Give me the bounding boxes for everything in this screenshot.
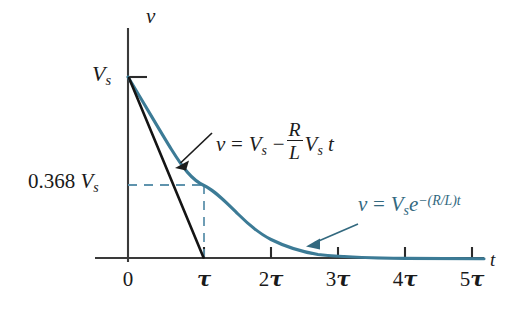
x-tick-label-3tau: 3τ <box>326 266 351 292</box>
tangent-eq-fraction-numerator: R <box>287 119 303 139</box>
vs-subscript: s <box>105 72 111 88</box>
x-tick-label-2tau-tau: τ <box>269 266 283 291</box>
exp-eq-exponent: −(R/L)t <box>418 193 460 208</box>
x-tick-label-5tau-tau: τ <box>470 266 484 291</box>
exp-eq-V: V <box>391 192 404 216</box>
x-tick-label-tau: τ <box>197 266 211 292</box>
x-tick-label-0: 0 <box>123 266 134 292</box>
x-tick-label-5tau: 5τ <box>460 266 485 292</box>
x-tick-label-4tau-text: 4 <box>393 267 404 291</box>
x-tick-label-3tau-text: 3 <box>326 267 337 291</box>
y-axis-label: v <box>146 6 155 27</box>
tangent-eq-fraction-denominator: L <box>287 142 303 162</box>
vs-symbol: V <box>92 61 105 86</box>
x-tick-label-tau-tau: τ <box>197 266 211 291</box>
exp-eq-v: v <box>358 192 367 216</box>
tangent-eq-V2: V <box>305 132 318 156</box>
x-tick-label-2tau-text: 2 <box>259 267 270 291</box>
x-tick-label-4tau: 4τ <box>393 266 418 292</box>
tangent-equation-label: v = Vs −RLVs t <box>216 119 334 162</box>
x-tick-label-5tau-text: 5 <box>460 267 471 291</box>
exponential-equation-label: v = Vse−(R/L)t <box>358 194 461 218</box>
point-368-symbol: V <box>81 169 94 193</box>
point-368-subscript: s <box>93 180 98 195</box>
x-tick-label-2tau: 2τ <box>259 266 284 292</box>
x-tick-label-4tau-tau: τ <box>403 266 417 291</box>
exp-eq-equals: = <box>373 192 385 216</box>
exp-eq-e: e <box>409 192 418 216</box>
point-368-number: 0.368 <box>28 169 81 193</box>
y-tick-label-0368vs: 0.368 Vs <box>28 171 99 195</box>
x-tick-label-0-text: 0 <box>123 267 134 291</box>
tangent-eq-V: V <box>249 132 262 156</box>
x-axis-label: t <box>490 250 495 269</box>
tangent-eq-v: v <box>216 132 225 156</box>
tangent-eq-equals: = <box>231 132 243 156</box>
tangent-eq-t: t <box>328 132 334 156</box>
tangent-eq-fraction: RL <box>287 119 303 162</box>
y-tick-label-vs: Vs <box>92 63 111 88</box>
tangent-eq-minus: − <box>273 132 285 156</box>
x-tick-label-3tau-tau: τ <box>336 266 350 291</box>
